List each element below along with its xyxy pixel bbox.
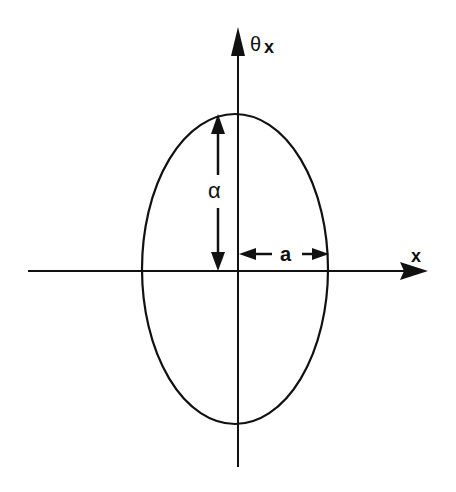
alpha-arrow-down-icon	[211, 252, 225, 271]
theta-axis-label-sub: x	[264, 37, 274, 57]
phase-space-diagram: θ x x α a	[0, 0, 456, 492]
alpha-label: α	[208, 178, 221, 203]
x-axis-label: x	[411, 246, 421, 266]
theta-axis	[231, 27, 245, 467]
theta-axis-label-main: θ	[250, 33, 261, 55]
alpha-arrow-up-icon	[211, 114, 225, 134]
x-axis	[28, 262, 428, 280]
theta-axis-arrow-icon	[231, 27, 245, 56]
phase-ellipse	[142, 114, 328, 424]
a-arrow-left-icon	[239, 248, 256, 260]
a-label: a	[280, 243, 292, 265]
